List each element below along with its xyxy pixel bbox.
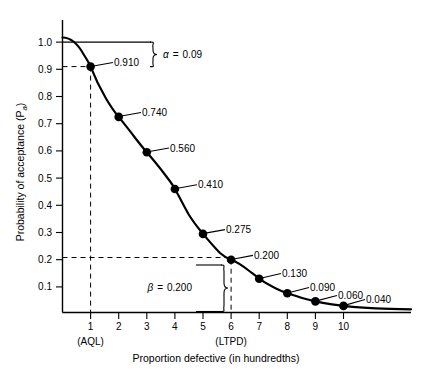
y-tick-label-0.4: 0.4: [38, 200, 52, 211]
alpha-annotation-label: α=0.09: [163, 49, 202, 60]
beta-brace-path: [221, 265, 228, 312]
point-label-5: 0.275: [226, 224, 251, 235]
data-point-10: [339, 302, 348, 311]
x-tick-label-9: 9: [313, 321, 319, 332]
data-point-7: [255, 274, 264, 283]
beta-symbol: β: [146, 282, 153, 293]
data-point-9: [311, 297, 320, 306]
alpha-brace: [150, 42, 157, 67]
alpha-symbol: α: [163, 49, 169, 60]
aql-label: (AQL): [77, 336, 104, 347]
y-tick-label-0.7: 0.7: [38, 118, 52, 129]
y-tick-label-0.2: 0.2: [38, 254, 52, 265]
point-label-10: 0.040: [366, 294, 391, 305]
x-tick-label-3: 3: [144, 321, 150, 332]
y-tick-label-0.1: 0.1: [38, 281, 52, 292]
y-tick-label-0.3: 0.3: [38, 227, 52, 238]
x-tick-label-1: 1: [88, 321, 94, 332]
data-point-1: [86, 62, 95, 71]
leader-3: [148, 148, 169, 152]
x-tick-label-6: 6: [228, 321, 234, 332]
point-label-6: 0.200: [254, 250, 279, 261]
alpha-equals: =: [173, 49, 179, 60]
y-axis-title: Probability of acceptance (Pa): [14, 103, 29, 242]
x-axis-ticks: [91, 313, 344, 320]
y-axis-ticks: [56, 42, 63, 287]
y-tick-label-0.8: 0.8: [38, 91, 52, 102]
point-label-8: 0.090: [310, 282, 335, 293]
point-label-3: 0.560: [170, 143, 195, 154]
leader-9: [317, 296, 338, 301]
y-axis-title-main: Probability of acceptance (P: [14, 111, 26, 242]
beta-equals: =: [157, 282, 163, 293]
y-axis-tick-labels: 1.0 0.9 0.8 0.7 0.6 0.5 0.4 0.3 0.2 0.1: [38, 37, 52, 293]
data-point-5: [199, 230, 208, 239]
y-axis-title-close: ): [14, 103, 26, 107]
ltpd-label: (LTPD): [215, 336, 246, 347]
point-label-4: 0.410: [198, 179, 223, 190]
leader-6: [233, 255, 254, 259]
leader-4: [176, 185, 197, 189]
leader-1: [92, 63, 113, 67]
x-tick-label-7: 7: [256, 321, 262, 332]
y-tick-label-0.6: 0.6: [38, 145, 52, 156]
x-axis-tick-labels: 1 2 3 4 5 6 7 8 9 10: [88, 321, 350, 332]
leader-2: [120, 113, 141, 117]
oc-curve-chart: 1.0 0.9 0.8 0.7 0.6 0.5 0.4 0.3 0.2 0.1 …: [0, 0, 430, 369]
leader-7: [261, 274, 282, 279]
oc-curve-path: [63, 38, 412, 310]
x-tick-label-10: 10: [338, 321, 350, 332]
alpha-value: 0.09: [183, 49, 203, 60]
beta-value: 0.200: [167, 282, 192, 293]
beta-annotation-label: β=0.200: [146, 282, 192, 293]
data-point-8: [283, 289, 292, 298]
data-point-4: [171, 185, 180, 194]
leader-5: [204, 230, 225, 234]
data-point-3: [143, 148, 152, 157]
point-label-1: 0.910: [114, 57, 139, 68]
y-tick-label-0.9: 0.9: [38, 64, 52, 75]
y-tick-label-0.5: 0.5: [38, 173, 52, 184]
data-point-6: [227, 255, 236, 264]
point-label-leaders: [92, 63, 365, 306]
x-axis-title: Proportion defective (in hundredths): [133, 352, 300, 364]
x-tick-label-5: 5: [200, 321, 206, 332]
data-point-2: [114, 113, 123, 122]
x-tick-label-4: 4: [172, 321, 178, 332]
chart-svg: 1.0 0.9 0.8 0.7 0.6 0.5 0.4 0.3 0.2 0.1 …: [0, 0, 430, 369]
point-label-7: 0.130: [282, 268, 307, 279]
x-tick-label-2: 2: [116, 321, 122, 332]
point-value-labels: 0.910 0.740 0.560 0.410 0.275 0.200 0.13…: [114, 57, 391, 305]
beta-brace: [196, 265, 228, 312]
point-label-2: 0.740: [142, 107, 167, 118]
leader-8: [289, 288, 310, 293]
x-tick-label-8: 8: [285, 321, 291, 332]
y-tick-label-1.0: 1.0: [38, 37, 52, 48]
point-label-9: 0.060: [338, 290, 363, 301]
alpha-brace-path: [150, 42, 157, 67]
